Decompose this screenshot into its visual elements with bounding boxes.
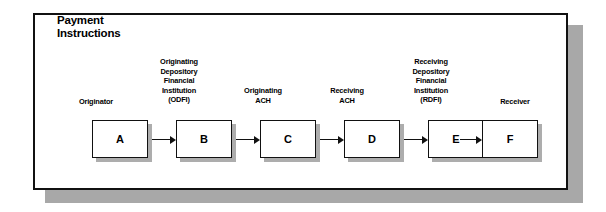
arrow-d-to-e xyxy=(404,135,428,144)
diagram-canvas: Payment Instructions Originator Originat… xyxy=(0,0,606,212)
node-label-receiving-ach: Receiving ACH xyxy=(316,86,378,105)
arrow-e-to-f-shaft xyxy=(460,139,476,140)
arrow-e-to-f-head xyxy=(476,136,482,144)
node-label-rdfi: Receiving Depository Financial Instituti… xyxy=(400,57,462,105)
arrow-a-to-b-shaft xyxy=(152,139,170,140)
node-label-odfi: Originating Depository Financial Institu… xyxy=(148,57,210,105)
node-d[interactable]: D xyxy=(344,120,400,158)
arrow-a-to-b-head xyxy=(170,136,176,144)
node-a-letter: A xyxy=(92,120,148,158)
node-label-receiver: Receiver xyxy=(484,97,546,107)
node-f[interactable]: F xyxy=(482,120,538,158)
node-c[interactable]: C xyxy=(260,120,316,158)
node-f-letter: F xyxy=(482,120,538,158)
arrow-c-to-d-head xyxy=(338,136,344,144)
arrow-c-to-d-shaft xyxy=(320,139,338,140)
node-a[interactable]: A xyxy=(92,120,148,158)
arrow-d-to-e-head xyxy=(422,136,428,144)
node-label-originator: Originator xyxy=(65,97,127,107)
arrow-a-to-b xyxy=(152,135,176,144)
arrow-d-to-e-shaft xyxy=(404,139,422,140)
arrow-b-to-c-head xyxy=(254,136,260,144)
arrow-b-to-c-shaft xyxy=(236,139,254,140)
node-b-letter: B xyxy=(176,120,232,158)
node-d-letter: D xyxy=(344,120,400,158)
diagram-title: Payment Instructions xyxy=(57,14,120,39)
node-c-letter: C xyxy=(260,120,316,158)
node-label-originating-ach: Originating ACH xyxy=(232,86,294,105)
arrow-c-to-d xyxy=(320,135,344,144)
arrow-b-to-c xyxy=(236,135,260,144)
node-b[interactable]: B xyxy=(176,120,232,158)
arrow-e-to-f xyxy=(460,135,482,144)
